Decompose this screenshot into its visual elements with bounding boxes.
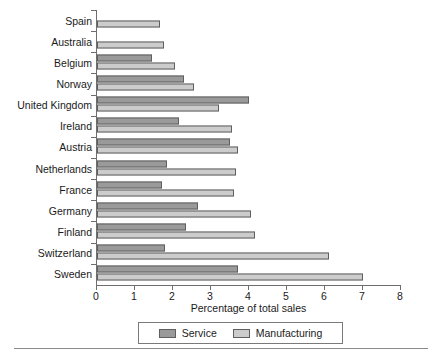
legend-label-service: Service	[182, 328, 217, 339]
bar-service	[97, 202, 198, 209]
bar-manufacturing	[97, 168, 236, 175]
y-axis-tick	[91, 200, 96, 201]
y-axis-tick	[91, 179, 96, 180]
footer-divider	[14, 348, 428, 349]
category-label: Sweden	[54, 269, 92, 280]
bar-manufacturing	[97, 126, 232, 133]
bar-manufacturing	[97, 105, 219, 112]
bar-chart-figure: SpainAustraliaBelgiumNorwayUnited Kingdo…	[0, 0, 440, 364]
x-axis-tick-label: 4	[245, 291, 251, 302]
chart-category-row: United Kingdom	[0, 95, 440, 116]
chart-plot-rows: SpainAustraliaBelgiumNorwayUnited Kingdo…	[0, 10, 440, 285]
category-label: United Kingdom	[17, 100, 92, 111]
chart-category-row: Belgium	[0, 52, 440, 73]
bar-manufacturing	[97, 253, 329, 260]
bar-manufacturing	[97, 189, 234, 196]
x-axis-tick-label: 1	[131, 291, 137, 302]
category-bars	[97, 118, 417, 135]
y-axis-tick	[91, 52, 96, 53]
y-axis-tick	[91, 243, 96, 244]
x-axis-tick-label: 8	[397, 291, 403, 302]
chart-category-row: Switzerland	[0, 243, 440, 264]
category-label: France	[59, 184, 92, 195]
x-axis-tick-label: 2	[169, 291, 175, 302]
bar-service	[97, 245, 165, 252]
chart-category-row: Austria	[0, 137, 440, 158]
legend-label-manufacturing: Manufacturing	[256, 328, 323, 339]
chart-category-row: Norway	[0, 73, 440, 94]
bar-service	[97, 97, 249, 104]
category-label: Ireland	[60, 121, 92, 132]
chart-category-row: Finland	[0, 221, 440, 242]
category-bars	[97, 139, 417, 156]
bar-service	[97, 118, 179, 125]
bar-service	[97, 75, 184, 82]
category-bars	[97, 245, 417, 262]
category-bars	[97, 75, 417, 92]
y-axis-tick	[91, 73, 96, 74]
bar-manufacturing	[97, 274, 363, 281]
category-label: Finland	[58, 227, 92, 238]
category-bars	[97, 266, 417, 283]
legend-item-manufacturing: Manufacturing	[233, 328, 323, 339]
category-label: Switzerland	[38, 248, 92, 259]
chart-category-row: Spain	[0, 10, 440, 31]
x-axis-title: Percentage of total sales	[96, 302, 401, 314]
bar-service	[97, 160, 167, 167]
chart-category-row: Australia	[0, 31, 440, 52]
y-axis-tick	[91, 264, 96, 265]
bar-manufacturing	[97, 20, 160, 27]
bar-manufacturing	[97, 41, 164, 48]
category-label: Netherlands	[35, 163, 92, 174]
category-label: Spain	[65, 15, 92, 26]
bar-service	[97, 223, 186, 230]
category-label: Germany	[49, 206, 92, 217]
x-axis-tick-label: 7	[359, 291, 365, 302]
category-bars	[97, 33, 417, 50]
y-axis-tick	[91, 158, 96, 159]
y-axis-tick	[91, 137, 96, 138]
category-label: Austria	[59, 142, 92, 153]
bar-manufacturing	[97, 83, 194, 90]
bar-manufacturing	[97, 210, 251, 217]
category-label: Australia	[51, 36, 92, 47]
category-bars	[97, 12, 417, 29]
bar-service	[97, 181, 162, 188]
x-axis-tick-label: 0	[93, 291, 99, 302]
legend-swatch-service-icon	[159, 329, 176, 338]
bar-manufacturing	[97, 62, 175, 69]
bar-service	[97, 139, 230, 146]
category-bars	[97, 223, 417, 240]
bar-manufacturing	[97, 231, 255, 238]
y-axis-tick	[91, 221, 96, 222]
category-bars	[97, 97, 417, 114]
legend-item-service: Service	[159, 328, 217, 339]
bar-service	[97, 54, 152, 61]
x-axis-tick-label: 5	[283, 291, 289, 302]
y-axis-tick	[91, 95, 96, 96]
bar-service	[97, 266, 238, 273]
chart-category-row: Netherlands	[0, 158, 440, 179]
category-label: Belgium	[54, 58, 92, 69]
y-axis-tick	[91, 116, 96, 117]
bar-manufacturing	[97, 147, 238, 154]
legend-swatch-manufacturing-icon	[233, 329, 250, 338]
category-bars	[97, 54, 417, 71]
category-bars	[97, 181, 417, 198]
chart-category-row: Germany	[0, 200, 440, 221]
chart-category-row: Sweden	[0, 264, 440, 285]
y-axis-tick	[91, 31, 96, 32]
category-label: Norway	[56, 79, 92, 90]
chart-category-row: France	[0, 179, 440, 200]
category-bars	[97, 160, 417, 177]
x-axis-tick-label: 6	[321, 291, 327, 302]
chart-legend: Service Manufacturing	[138, 322, 343, 344]
y-axis-tick	[91, 10, 96, 11]
category-bars	[97, 202, 417, 219]
x-axis-tick-label: 3	[207, 291, 213, 302]
chart-category-row: Ireland	[0, 116, 440, 137]
